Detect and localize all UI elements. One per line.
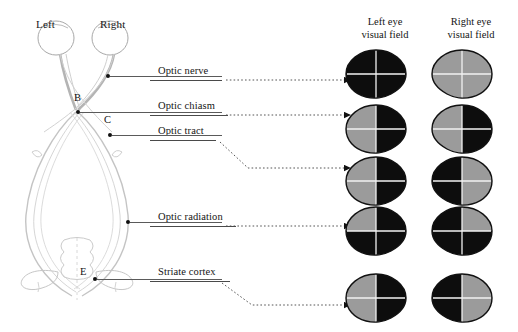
column-header-right-eye: Right eye visual field — [426, 16, 516, 41]
visual-field-optic-tract-right-eye — [430, 155, 494, 207]
column-header-right-eye-line1: Right eye — [426, 16, 516, 29]
lesion-marker-optic-nerve — [106, 74, 110, 78]
callout-stem-optic-nerve — [110, 76, 222, 77]
callout-stem-optic-radiation — [130, 222, 222, 223]
lesion-marker-striate-cortex — [93, 277, 97, 281]
callout-label-optic-radiation: Optic radiation — [158, 211, 223, 222]
visual-field-optic-radiation-left-eye — [344, 205, 408, 257]
column-header-right-eye-line2: visual field — [426, 29, 516, 42]
pathway-drawing — [0, 0, 175, 332]
callout-underline-optic-nerve — [150, 80, 222, 81]
visual-field-optic-radiation-right-eye — [430, 205, 494, 257]
callout-underline-optic-radiation — [150, 226, 236, 227]
callout-label-optic-nerve: Optic nerve — [158, 65, 208, 76]
callout-underline-optic-chiasm — [150, 115, 228, 116]
point-label-c: C — [104, 114, 111, 125]
lesion-marker-optic-radiation — [126, 220, 130, 224]
figure-canvas: Left Right B C E Optic nerve — [0, 0, 518, 332]
column-header-left-eye-line2: visual field — [340, 29, 430, 42]
eye-label-right: Right — [100, 18, 125, 30]
lesion-marker-optic-chiasm — [76, 110, 80, 114]
visual-pathway-anatomy: Left Right B C E — [0, 0, 175, 332]
callout-stem-optic-tract — [112, 135, 222, 136]
visual-field-optic-nerve-left-eye — [344, 48, 408, 100]
callout-underline-striate-cortex — [150, 281, 230, 282]
callout-label-optic-chiasm: Optic chiasm — [158, 100, 215, 111]
visual-field-optic-nerve-right-eye — [430, 48, 494, 100]
eye-label-left: Left — [36, 18, 55, 30]
callout-stem-striate-cortex — [97, 279, 222, 280]
visual-field-striate-cortex-left-eye — [344, 272, 408, 324]
column-header-left-eye-line1: Left eye — [340, 16, 430, 29]
visual-field-striate-cortex-right-eye — [430, 272, 494, 324]
callout-label-striate-cortex: Striate cortex — [158, 266, 216, 277]
callout-underline-optic-tract — [150, 140, 216, 141]
visual-field-column: Left eye visual field Right eye visual f… — [330, 0, 518, 332]
point-label-b: B — [74, 92, 81, 103]
visual-field-optic-chiasm-left-eye — [344, 103, 408, 155]
visual-field-optic-tract-left-eye — [344, 155, 408, 207]
callout-stem-optic-chiasm — [80, 112, 222, 113]
lesion-marker-optic-tract — [108, 133, 112, 137]
visual-field-optic-chiasm-right-eye — [430, 103, 494, 155]
column-header-left-eye: Left eye visual field — [340, 16, 430, 41]
point-label-e: E — [80, 266, 86, 277]
